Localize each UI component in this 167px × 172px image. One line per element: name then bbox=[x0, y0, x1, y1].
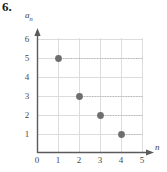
plot-graphics bbox=[0, 0, 167, 172]
data-point bbox=[55, 55, 62, 62]
x-tick-label-1: 1 bbox=[52, 155, 64, 165]
y-tick-label-2: 2 bbox=[21, 110, 33, 120]
y-tick-label-4: 4 bbox=[21, 72, 33, 82]
x-tick-label-2: 2 bbox=[73, 155, 85, 165]
x-tick-label-0: 0 bbox=[31, 155, 43, 165]
x-tick-label-3: 3 bbox=[94, 155, 106, 165]
plot-area: an n 6 5 4 3 2 1 0 1 2 3 4 5 bbox=[0, 0, 167, 172]
grid-horizontal-lines bbox=[37, 40, 143, 135]
y-tick-label-3: 3 bbox=[21, 91, 33, 101]
data-point bbox=[76, 93, 83, 100]
data-point bbox=[118, 131, 125, 138]
y-tick-label-6: 6 bbox=[21, 34, 33, 44]
x-tick-label-4: 4 bbox=[115, 155, 127, 165]
grid-vertical-lines bbox=[59, 38, 143, 153]
y-axis-label: an bbox=[25, 10, 33, 22]
data-point bbox=[97, 112, 104, 119]
x-tick-label-5: 5 bbox=[136, 155, 148, 165]
x-axis-label: n bbox=[155, 142, 160, 152]
sequence-scatter-plot-figure: 6. bbox=[0, 0, 167, 172]
y-tick-label-5: 5 bbox=[21, 53, 33, 63]
y-tick-label-1: 1 bbox=[21, 129, 33, 139]
y-axis-label-subscript: n bbox=[30, 15, 33, 22]
